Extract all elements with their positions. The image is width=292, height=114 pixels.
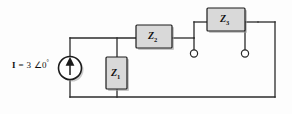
- z3-label: Z3: [220, 14, 229, 27]
- z1-label: Z1: [111, 68, 120, 81]
- source-quantity-symbol: I: [12, 60, 16, 70]
- z2-subscript: 2: [154, 36, 157, 43]
- circuit-diagram: I=3∠0° Z1 Z2 Z3: [0, 0, 292, 114]
- z2-label: Z2: [148, 31, 157, 44]
- source-magnitude: 3: [27, 60, 32, 70]
- angle-icon: ∠: [34, 60, 42, 70]
- terminal-right[interactable]: [241, 50, 248, 57]
- degree-icon: °: [47, 59, 49, 65]
- terminal-left[interactable]: [190, 50, 197, 57]
- source-label: I=3∠0°: [12, 59, 49, 70]
- schematic-svg: [0, 0, 292, 114]
- z3-subscript: 3: [226, 19, 229, 26]
- current-source: [59, 57, 84, 82]
- source-equals: =: [19, 60, 24, 70]
- z1-subscript: 1: [117, 73, 120, 80]
